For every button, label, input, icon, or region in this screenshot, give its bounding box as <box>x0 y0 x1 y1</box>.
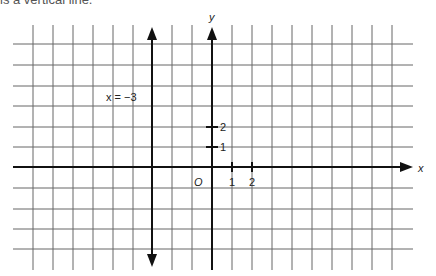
x-axis-arrow-icon <box>400 162 413 172</box>
y-tick-label-2: 2 <box>220 121 226 133</box>
line-equation-label: x = −3 <box>106 91 137 103</box>
x-tick-label-2: 2 <box>249 176 255 188</box>
x-axis-label: x <box>417 162 424 174</box>
y-axis-label: y <box>208 11 216 23</box>
coordinate-grid: y x O 1 2 2 1 x = −3 <box>0 0 436 276</box>
origin-label: O <box>194 176 203 188</box>
y-axis-arrow-icon <box>207 27 217 40</box>
y-axis <box>207 27 217 270</box>
line-arrow-down-icon <box>147 254 157 267</box>
y-tick-label-1: 1 <box>220 141 226 153</box>
line-arrow-up-icon <box>147 27 157 40</box>
x-tick-label-1: 1 <box>229 176 235 188</box>
